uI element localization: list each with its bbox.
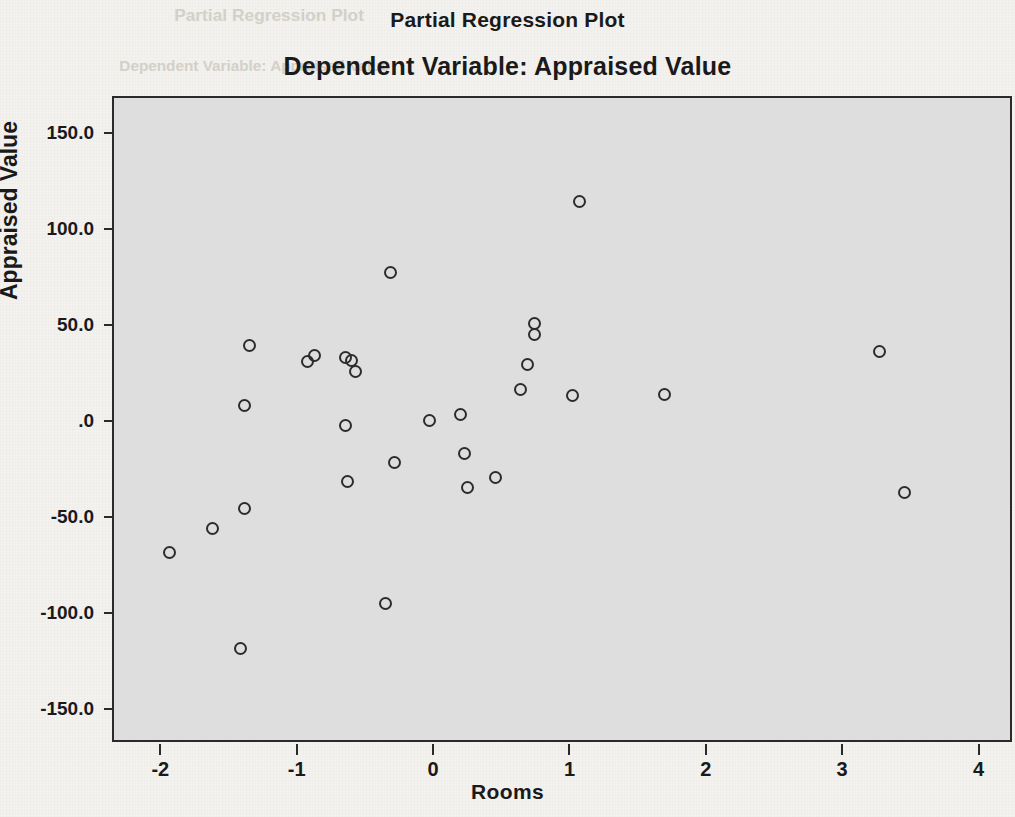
data-point bbox=[566, 389, 579, 402]
y-axis-title: Appraised Value bbox=[0, 121, 23, 300]
y-axis-tick-label: 50.0 bbox=[6, 314, 94, 336]
x-axis-tick bbox=[841, 744, 843, 755]
y-axis-tick-label: -100.0 bbox=[6, 602, 94, 624]
y-axis-tick bbox=[104, 420, 114, 422]
y-axis-tick-label: 150.0 bbox=[6, 122, 94, 144]
x-axis-tick-label: 2 bbox=[686, 758, 726, 781]
y-axis-tick bbox=[104, 612, 114, 614]
plot-area: -150.0-100.0-50.0.050.0100.0150.0-2-1012… bbox=[112, 96, 1012, 742]
y-axis-tick-label: -150.0 bbox=[6, 698, 94, 720]
data-point bbox=[384, 266, 397, 279]
y-axis-tick bbox=[104, 708, 114, 710]
data-point bbox=[454, 408, 467, 421]
data-point bbox=[349, 365, 362, 378]
data-point bbox=[658, 388, 671, 401]
data-point bbox=[423, 414, 436, 427]
data-point bbox=[458, 447, 471, 460]
data-point bbox=[341, 475, 354, 488]
data-point bbox=[461, 481, 474, 494]
data-point bbox=[339, 419, 352, 432]
data-point bbox=[388, 456, 401, 469]
x-axis-tick bbox=[705, 744, 707, 755]
y-axis-tick-label: -50.0 bbox=[6, 506, 94, 528]
y-axis-tick bbox=[104, 132, 114, 134]
x-axis-tick-label: 0 bbox=[413, 758, 453, 781]
data-point bbox=[308, 349, 321, 362]
data-point bbox=[873, 345, 886, 358]
data-point bbox=[528, 328, 541, 341]
x-axis-tick-label: 3 bbox=[822, 758, 862, 781]
data-point bbox=[489, 471, 502, 484]
data-point bbox=[514, 383, 527, 396]
chart-subtitle: Dependent Variable: Appraised Value bbox=[0, 52, 1015, 81]
data-point bbox=[163, 546, 176, 559]
x-axis-tick bbox=[432, 744, 434, 755]
x-axis-title: Rooms bbox=[0, 780, 1015, 804]
data-point bbox=[243, 339, 256, 352]
y-axis-tick bbox=[104, 324, 114, 326]
y-axis-tick-label: 100.0 bbox=[6, 218, 94, 240]
y-axis-tick-label: .0 bbox=[6, 410, 94, 432]
data-point bbox=[521, 358, 534, 371]
data-point bbox=[898, 486, 911, 499]
x-axis-tick bbox=[568, 744, 570, 755]
data-point bbox=[234, 642, 247, 655]
x-axis-tick bbox=[978, 744, 980, 755]
x-axis-tick bbox=[159, 744, 161, 755]
x-axis-tick-label: -1 bbox=[277, 758, 317, 781]
x-axis-tick bbox=[296, 744, 298, 755]
data-point bbox=[238, 399, 251, 412]
data-point bbox=[238, 502, 251, 515]
data-point bbox=[206, 522, 219, 535]
chart-title: Partial Regression Plot bbox=[0, 8, 1015, 32]
y-axis-tick bbox=[104, 228, 114, 230]
data-point bbox=[379, 597, 392, 610]
x-axis-tick-label: 4 bbox=[959, 758, 999, 781]
plot-points-layer bbox=[114, 98, 1010, 740]
data-point bbox=[573, 195, 586, 208]
y-axis-tick bbox=[104, 516, 114, 518]
x-axis-tick-label: 1 bbox=[549, 758, 589, 781]
x-axis-tick-label: -2 bbox=[140, 758, 180, 781]
